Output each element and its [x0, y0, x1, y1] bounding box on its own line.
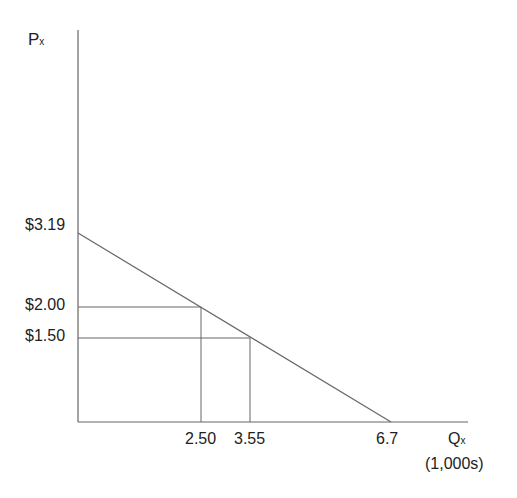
- x-axis-label-main: Q: [448, 430, 460, 447]
- y-axis-label: Px: [28, 31, 44, 48]
- y-tick-1.50: $1.50: [25, 328, 65, 344]
- x-tick-3.55: 3.55: [234, 431, 265, 447]
- y-tick-2.00: $2.00: [25, 297, 65, 313]
- x-tick-6.7: 6.7: [376, 431, 398, 447]
- x-axis-units: (1,000s): [425, 456, 484, 472]
- demand-curve: [78, 233, 391, 422]
- x-axis-label-sub: x: [460, 435, 465, 446]
- x-axis-label: Qx: [448, 431, 465, 447]
- y-tick-3.19: $3.19: [25, 217, 65, 233]
- x-tick-2.50: 2.50: [185, 431, 216, 447]
- y-axis-label-main: P: [28, 30, 39, 49]
- y-axis-label-sub: x: [39, 36, 44, 47]
- demand-chart: [0, 0, 517, 498]
